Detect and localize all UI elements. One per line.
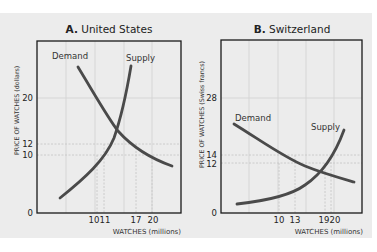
chart-a-frame xyxy=(37,41,181,213)
chart-a-ytick-10: 10 xyxy=(22,150,33,160)
chart-switzerland: B. Switzerland Demand Supply 28 14 12 0 xyxy=(198,23,363,236)
chart-b-y-axis-label: PRICE OF WATCHES (Swiss francs) xyxy=(198,61,205,168)
chart-b-grid xyxy=(221,40,362,213)
chart-a-xtick-20: 20 xyxy=(148,215,159,225)
chart-a-ytick-12: 12 xyxy=(22,139,33,149)
chart-a-demand-label: Demand xyxy=(52,51,88,61)
chart-a-title: A. United States xyxy=(66,23,153,35)
chart-b-supply-curve xyxy=(237,130,344,204)
chart-united-states: A. United States Demand Supply 20 12 1 xyxy=(13,23,181,236)
chart-a-ytick-0: 0 xyxy=(28,208,33,218)
chart-b-xtick-10: 10 xyxy=(274,215,285,225)
chart-a-grid xyxy=(37,41,181,213)
chart-b-ytick-12: 12 xyxy=(206,159,217,169)
figure: A. United States Demand Supply 20 12 1 xyxy=(0,0,377,252)
chart-b-xtick-20: 20 xyxy=(330,215,341,225)
chart-a-xtick-17: 17 xyxy=(131,215,142,225)
chart-b-demand-curve xyxy=(234,124,354,182)
chart-b-title: B. Switzerland xyxy=(254,23,331,35)
chart-a-demand-curve xyxy=(78,67,172,166)
chart-b-x-axis-label: WATCHES (millions) xyxy=(295,228,364,236)
chart-a-reference-lines xyxy=(37,144,181,213)
chart-b-demand-label: Demand xyxy=(235,113,271,123)
chart-a-x-axis-label: WATCHES (millions) xyxy=(113,228,182,236)
chart-a-y-axis-label: PRICE OF WATCHES (dollars) xyxy=(13,66,20,155)
chart-b-xtick-13: 13 xyxy=(290,215,301,225)
chart-a-xtick-11: 11 xyxy=(100,215,111,225)
chart-a-supply-label: Supply xyxy=(126,53,155,63)
chart-b-supply-label: Supply xyxy=(311,122,340,132)
chart-b-ytick-28: 28 xyxy=(206,93,217,103)
chart-a-ytick-20: 20 xyxy=(22,93,33,103)
chart-b-ytick-0: 0 xyxy=(212,208,217,218)
chart-b-frame xyxy=(221,40,362,213)
chart-a-xtick-10: 10 xyxy=(89,215,100,225)
chart-b-xtick-19: 19 xyxy=(319,215,330,225)
